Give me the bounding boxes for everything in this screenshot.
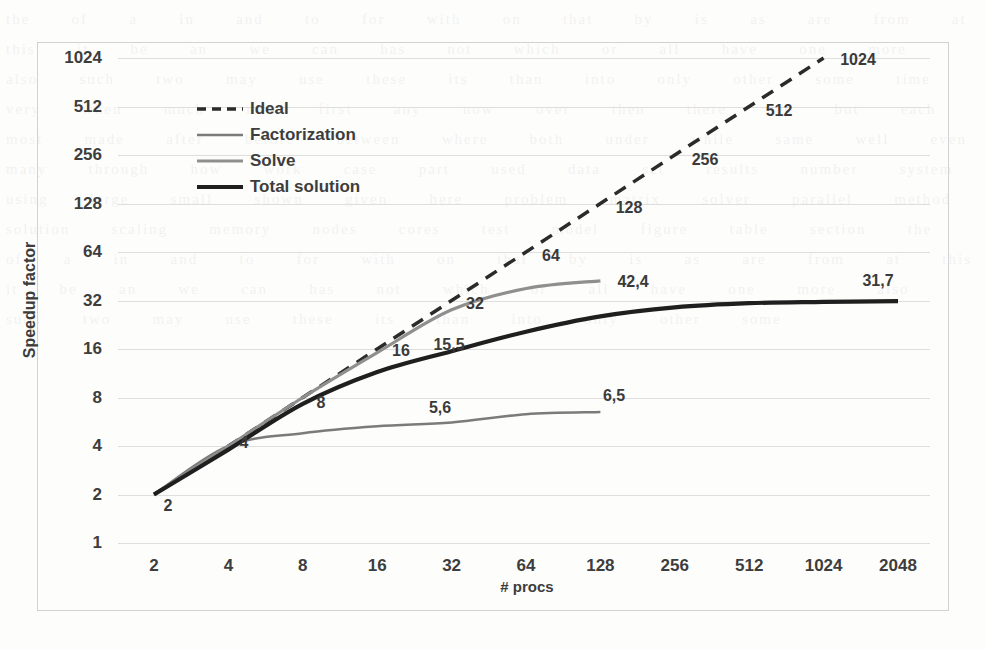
data-point-label: 5,6	[429, 399, 451, 417]
data-point-label: 15,5	[433, 336, 464, 354]
chart-legend: IdealFactorizationSolveTotal solution	[197, 96, 427, 200]
data-point-label: 128	[616, 199, 643, 217]
legend-item-ideal[interactable]: Ideal	[197, 96, 427, 122]
legend-item-total-solution[interactable]: Total solution	[197, 174, 427, 200]
scanned-page: the of a in and to for with on that by i…	[0, 0, 986, 650]
data-point-label: 32	[466, 295, 484, 313]
data-point-label: 16	[392, 342, 410, 360]
data-point-label: 256	[692, 151, 719, 169]
data-point-label: 42,4	[617, 273, 648, 291]
legend-label: Factorization	[250, 125, 356, 145]
data-point-label: 64	[542, 247, 560, 265]
chart-canvas: 12481632641282565121024 2481632641282565…	[0, 0, 986, 650]
data-point-label: 31,7	[862, 272, 893, 290]
data-point-label: 8	[317, 394, 326, 412]
chart-series-layer	[0, 0, 986, 650]
series-line-solve	[154, 281, 600, 495]
y-axis-title: Speedup factor	[21, 242, 39, 358]
data-point-label: 512	[766, 102, 793, 120]
series-line-total-solution	[154, 301, 898, 494]
data-point-label: 4	[240, 434, 249, 452]
legend-item-solve[interactable]: Solve	[197, 148, 427, 174]
legend-label: Solve	[250, 151, 295, 171]
data-point-label: 2	[164, 497, 173, 515]
x-axis-title: # procs	[500, 578, 553, 595]
legend-label: Total solution	[250, 177, 360, 197]
data-point-label: 1024	[840, 51, 876, 69]
legend-label: Ideal	[250, 99, 289, 119]
data-point-label: 6,5	[603, 387, 625, 405]
legend-item-factorization[interactable]: Factorization	[197, 122, 427, 148]
